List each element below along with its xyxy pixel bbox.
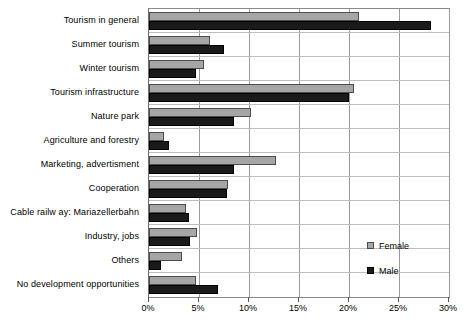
bar-female xyxy=(149,276,196,285)
category-label: Winter tourism xyxy=(0,56,144,80)
bar-row xyxy=(149,228,449,237)
category-label: No development opportunities xyxy=(0,272,144,296)
bar-male xyxy=(149,93,349,102)
bar-female xyxy=(149,12,359,21)
bar-row xyxy=(149,12,449,21)
bar-male xyxy=(149,285,218,294)
bar-female xyxy=(149,228,197,237)
bar-group xyxy=(149,153,449,177)
category-label: Cooperation xyxy=(0,176,144,200)
bar-female xyxy=(149,36,210,45)
bar-row xyxy=(149,84,449,93)
category-label: Others xyxy=(0,248,144,272)
x-tick-mark xyxy=(448,297,449,302)
bar-row xyxy=(149,60,449,69)
x-tick-mark xyxy=(248,297,249,302)
bar-female xyxy=(149,204,186,213)
bar-male xyxy=(149,213,189,222)
bar-row xyxy=(149,156,449,165)
bar-female xyxy=(149,132,164,141)
bar-row xyxy=(149,204,449,213)
category-label: Marketing, advertisment xyxy=(0,152,144,176)
category-label: Nature park xyxy=(0,104,144,128)
bar-female xyxy=(149,156,276,165)
female-swatch-icon xyxy=(367,242,374,249)
bar-male xyxy=(149,261,161,270)
x-tick-mark xyxy=(398,297,399,302)
bar-group xyxy=(149,105,449,129)
gridline xyxy=(449,9,450,297)
bar-row xyxy=(149,213,449,222)
category-label: Tourism in general xyxy=(0,8,144,32)
bar-male xyxy=(149,21,431,30)
bar-group xyxy=(149,177,449,201)
bar-row xyxy=(149,21,449,30)
bar-row xyxy=(149,93,449,102)
x-tick-mark xyxy=(298,297,299,302)
bar-row xyxy=(149,117,449,126)
x-tick-mark xyxy=(148,297,149,302)
bar-male xyxy=(149,237,190,246)
bar-female xyxy=(149,108,251,117)
x-tick-mark xyxy=(198,297,199,302)
category-label: Industry, jobs xyxy=(0,224,144,248)
bar-group xyxy=(149,81,449,105)
bar-male xyxy=(149,189,227,198)
x-tick-label: 15% xyxy=(289,303,307,314)
bar-group xyxy=(149,33,449,57)
bar-row xyxy=(149,108,449,117)
male-swatch-icon xyxy=(367,267,374,274)
bar-row xyxy=(149,189,449,198)
bar-row xyxy=(149,45,449,54)
bar-row xyxy=(149,132,449,141)
bar-female xyxy=(149,180,228,189)
x-tick-label: 25% xyxy=(389,303,407,314)
x-tick-label: 10% xyxy=(239,303,257,314)
x-tick-label: 5% xyxy=(191,303,204,314)
bar-female xyxy=(149,84,354,93)
bar-male xyxy=(149,165,234,174)
bar-group xyxy=(149,9,449,33)
x-tick-label: 20% xyxy=(339,303,357,314)
legend-item: Female xyxy=(367,240,437,251)
bar-row xyxy=(149,36,449,45)
bar-row xyxy=(149,141,449,150)
bar-female xyxy=(149,252,182,261)
category-label: Tourism infrastructure xyxy=(0,80,144,104)
category-label: Agriculture and forestry xyxy=(0,128,144,152)
bar-female xyxy=(149,60,204,69)
legend-label: Male xyxy=(379,266,399,276)
category-label: Summer tourism xyxy=(0,32,144,56)
x-tick-label: 30% xyxy=(439,303,457,314)
bar-male xyxy=(149,45,224,54)
bar-group xyxy=(149,57,449,81)
bar-row xyxy=(149,180,449,189)
bar-male xyxy=(149,141,169,150)
bar-male xyxy=(149,69,196,78)
x-axis: 0%5%10%15%20%25%30% xyxy=(148,297,449,327)
bar-male xyxy=(149,117,234,126)
category-label: Cable railw ay: Mariazellerbahn xyxy=(0,200,144,224)
x-tick-mark xyxy=(348,297,349,302)
bar-chart: Tourism in generalSummer tourismWinter t… xyxy=(0,0,468,334)
bar-row xyxy=(149,165,449,174)
legend-item: Male xyxy=(367,265,437,276)
category-axis-labels: Tourism in generalSummer tourismWinter t… xyxy=(0,8,144,296)
chart-legend: FemaleMale xyxy=(367,240,437,290)
bar-group xyxy=(149,129,449,153)
bar-row xyxy=(149,69,449,78)
x-tick-label: 0% xyxy=(141,303,154,314)
legend-label: Female xyxy=(379,241,409,251)
bar-group xyxy=(149,201,449,225)
